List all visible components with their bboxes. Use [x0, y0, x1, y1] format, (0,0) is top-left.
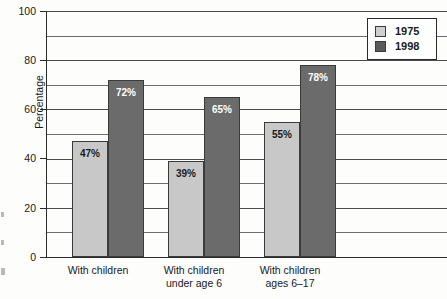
bar-value-label: 78% — [301, 73, 335, 83]
y-tick-label-0: 0 — [4, 252, 36, 263]
gridline-50 — [46, 134, 447, 135]
y-tick-label-100: 100 — [4, 6, 36, 17]
bar-1998-with-children-under-age-6: 65% — [204, 97, 240, 257]
bar-chart: Percentage 0 20 40 60 80 100 47% 72% 39% — [0, 0, 447, 299]
legend-swatch-icon-1975 — [375, 26, 386, 37]
bar-value-label: 55% — [265, 130, 299, 140]
bar-1998-with-children-ages-6-17: 78% — [300, 65, 336, 257]
bar-value-label: 47% — [73, 149, 107, 159]
bar-value-label: 65% — [205, 105, 239, 115]
legend-label-1975: 1975 — [395, 26, 419, 37]
legend-swatch-icon-1998 — [375, 41, 386, 52]
x-axis-line — [46, 257, 447, 258]
gridline-100 — [46, 11, 447, 12]
x-category-label-with-children-ages-6-17: With children ages 6–17 — [244, 264, 336, 290]
y-axis-line — [46, 11, 47, 258]
bar-1975-with-children-under-age-6: 39% — [168, 161, 204, 257]
legend-item-1998: 1998 — [375, 39, 430, 54]
bar-value-label: 72% — [109, 88, 143, 98]
bar-1975-with-children-ages-6-17: 55% — [264, 122, 300, 257]
x-category-label-with-children-under-age-6: With children under age 6 — [148, 264, 240, 290]
scan-artifact — [1, 240, 4, 245]
scan-artifact — [1, 268, 5, 275]
legend: 1975 1998 — [367, 18, 437, 60]
legend-label-1998: 1998 — [395, 41, 419, 52]
y-tick-label-20: 20 — [4, 203, 36, 214]
bar-1998-with-children: 72% — [108, 80, 144, 257]
y-tick-label-80: 80 — [4, 55, 36, 66]
bar-1975-with-children: 47% — [72, 141, 108, 257]
bar-value-label: 39% — [169, 169, 203, 179]
y-tick-label-60: 60 — [4, 104, 36, 115]
x-category-label-with-children: With children — [52, 264, 144, 277]
legend-item-1975: 1975 — [375, 24, 430, 39]
gridline-70 — [46, 85, 447, 86]
y-tick-label-40: 40 — [4, 153, 36, 164]
gridline-80 — [46, 60, 447, 61]
gridline-60 — [46, 109, 447, 110]
